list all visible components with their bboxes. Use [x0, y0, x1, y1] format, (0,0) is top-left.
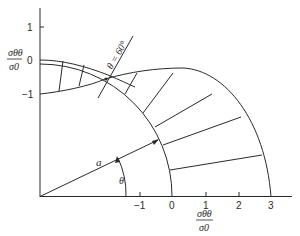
crossing-point: [104, 77, 107, 80]
hatch-line: [143, 73, 173, 113]
hatch-line: [163, 117, 241, 145]
radius-arrow-icon: [152, 139, 159, 145]
stress-diagram: 1 0 −1 σθθ σ0 −1 0 1 2 3 σθθ σ0 θ = 60° …: [0, 0, 300, 236]
bottom-tick-label-m1: −1: [134, 200, 146, 211]
bottom-tick-label-3: 3: [268, 200, 274, 211]
bottom-tick-label-2: 2: [236, 200, 242, 211]
left-tick-label-1: 1: [27, 22, 33, 33]
left-tick-label-0: 0: [27, 55, 33, 66]
hatch-line: [170, 155, 262, 170]
left-axis-numerator: σθθ: [8, 47, 23, 58]
bottom-tick-label-0: 0: [169, 200, 175, 211]
bottom-axis-denominator: σ0: [199, 222, 209, 233]
bottom-axis-numerator: σθθ: [197, 208, 212, 219]
angle-label: θ: [119, 175, 124, 186]
hatch-line: [79, 65, 84, 86]
theta-60-label: θ = 60°: [104, 39, 129, 71]
stress-curve-upper: [40, 60, 135, 87]
hatch-line: [155, 94, 212, 127]
radius-line: [40, 140, 158, 197]
left-tick-label-m1: −1: [22, 89, 34, 100]
radius-label: a: [96, 156, 102, 168]
theta-arrow-icon: [115, 156, 120, 163]
left-axis-denominator: σ0: [9, 61, 19, 72]
